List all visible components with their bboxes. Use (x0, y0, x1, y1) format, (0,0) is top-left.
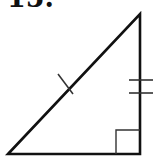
right-triangle-diagram (0, 0, 165, 159)
hypotenuse-congruence-tick (58, 74, 73, 94)
right-angle-marker (116, 130, 140, 154)
triangle-outline (8, 14, 140, 154)
problem-figure-canvas: 15. (0, 0, 165, 159)
